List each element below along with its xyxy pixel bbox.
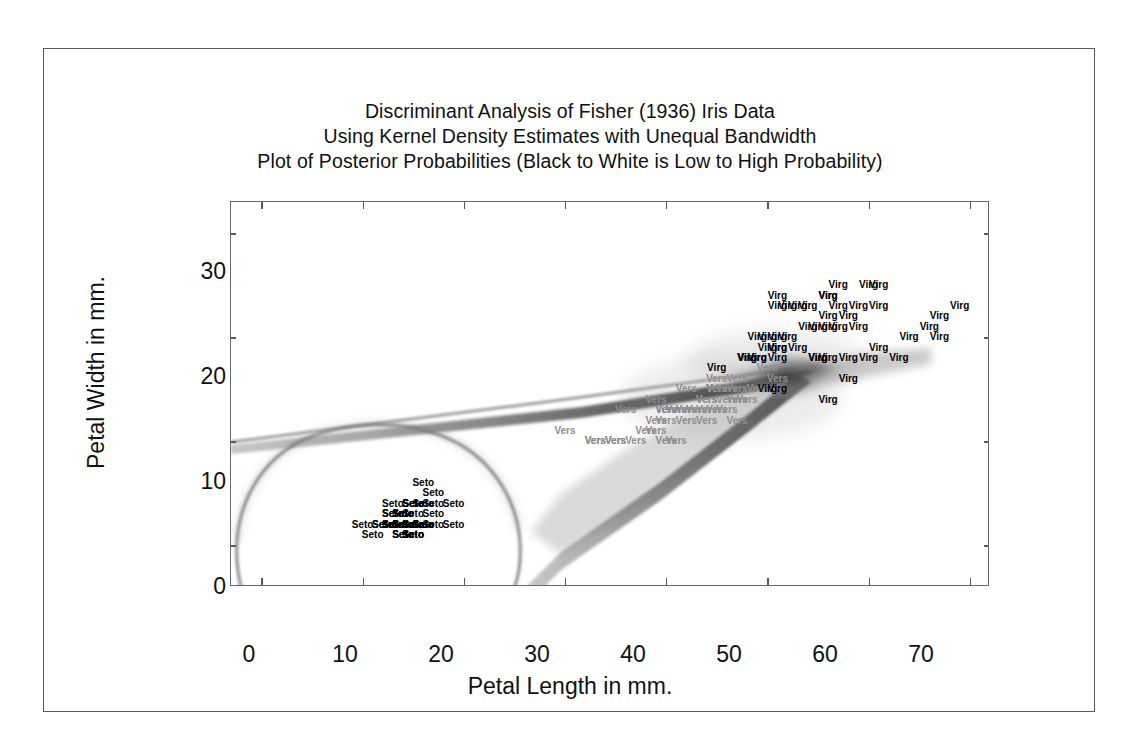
x-axis-tick [970, 201, 971, 209]
ytick-label: 30 [166, 258, 226, 285]
title-line-3: Plot of Posterior Probabilities (Black t… [44, 149, 1096, 174]
xtick-label: 30 [524, 641, 550, 668]
x-axis-tick [565, 201, 566, 209]
y-axis-tick [984, 337, 990, 338]
y-axis-tick [984, 233, 990, 234]
y-axis-tick [984, 441, 990, 442]
y-axis-tick [230, 441, 236, 442]
ytick-label: 20 [166, 363, 226, 390]
xtick-label: 60 [812, 641, 838, 668]
x-axis-tick [869, 578, 870, 586]
x-axis-tick [767, 201, 768, 209]
xtick-label: 20 [428, 641, 454, 668]
x-axis-tick [261, 201, 262, 209]
figure-page-frame: Discriminant Analysis of Fisher (1936) I… [43, 48, 1095, 712]
y-axis-tick [230, 233, 236, 234]
ytick-label: 10 [166, 468, 226, 495]
x-axis-tick [464, 578, 465, 586]
x-axis-tick [363, 578, 364, 586]
x-axis-tick [970, 578, 971, 586]
x-axis-tick [363, 201, 364, 209]
x-axis-tick [666, 578, 667, 586]
posterior-density-shading [231, 202, 989, 586]
xtick-label: 40 [620, 641, 646, 668]
y-axis-tick [984, 545, 990, 546]
plot-area: SetoSetoSetoSetoSetoSetoSetoSetoSetoSeto… [230, 201, 989, 586]
xtick-label: 70 [908, 641, 934, 668]
x-axis-label: Petal Length in mm. [44, 673, 1096, 700]
chart-title: Discriminant Analysis of Fisher (1936) I… [44, 99, 1096, 174]
x-axis-tick [869, 201, 870, 209]
xtick-label: 0 [243, 641, 256, 668]
ytick-label: 0 [166, 573, 226, 600]
y-axis-label: Petal Width in mm. [83, 276, 110, 469]
title-line-1: Discriminant Analysis of Fisher (1936) I… [44, 99, 1096, 124]
xtick-label: 10 [332, 641, 358, 668]
title-line-2: Using Kernel Density Estimates with Uneq… [44, 124, 1096, 149]
y-axis-tick [230, 337, 236, 338]
x-axis-tick [666, 201, 667, 209]
xtick-label: 50 [716, 641, 742, 668]
x-axis-tick [767, 578, 768, 586]
x-axis-tick [464, 201, 465, 209]
y-axis-tick [230, 545, 236, 546]
x-axis-tick [565, 578, 566, 586]
x-axis-tick [261, 578, 262, 586]
